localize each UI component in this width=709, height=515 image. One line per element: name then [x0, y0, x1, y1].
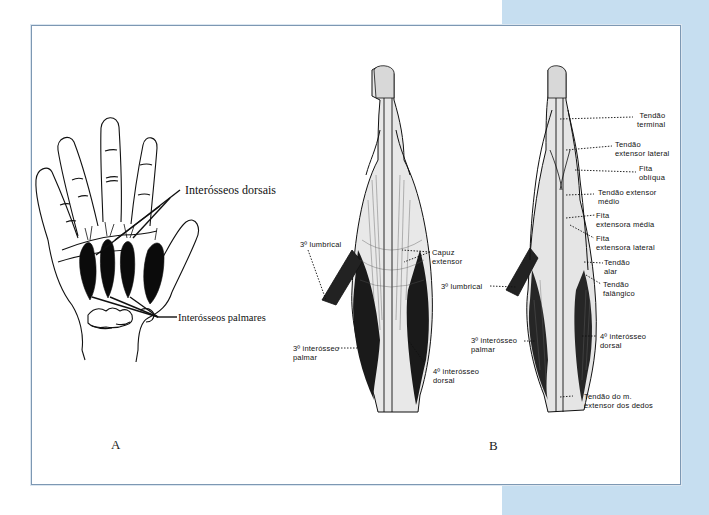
label-tendao-extensor-lateral: Tendão extensor lateral — [615, 140, 669, 158]
label-lumbrical-left: 3º lumbrical — [300, 240, 341, 249]
label-interosseo-dorsal-right: 4º interósseo dorsal — [600, 332, 646, 350]
hand-drawing — [36, 118, 199, 362]
finger-diagram-right — [506, 66, 596, 412]
label-fita-extensora-lateral: Fita extensora lateral — [596, 234, 655, 252]
label-tendao-terminal: Tendão terminal — [637, 111, 665, 129]
label-tendao-extensor-dos-dedos: Tendão do m. extensor dos dedos — [584, 392, 653, 410]
label-tendao-extensor-medio: Tendão extensor médio — [598, 188, 656, 206]
label-lumbrical-right: 3º lumbrical — [441, 282, 482, 291]
label-interosseo-dorsal-left: 4º interósseo dorsal — [433, 367, 479, 385]
label-fita-extensora-media: Fita extensora média — [596, 211, 654, 229]
label-interosseos-dorsais: Interósseos dorsais — [185, 186, 276, 195]
label-tendao-falangico: Tendão falângico — [603, 280, 635, 298]
figure-letter-b: B — [489, 438, 498, 454]
label-capuz-extensor: Capuz extensor — [432, 248, 462, 266]
interossei-muscles — [80, 240, 164, 305]
figure-letter-a: A — [111, 437, 120, 453]
label-interosseos-palmares: Interósseos palmares — [178, 313, 266, 322]
label-interosseo-palmar-left: 3º interósseo palmar — [293, 344, 339, 362]
label-tendao-alar: Tendão alar — [604, 258, 630, 276]
label-fita-obliqua: Fita oblíqua — [639, 164, 665, 182]
label-interosseo-palmar-right: 3º interósseo palmar — [471, 336, 517, 354]
anatomy-illustration — [0, 0, 709, 515]
